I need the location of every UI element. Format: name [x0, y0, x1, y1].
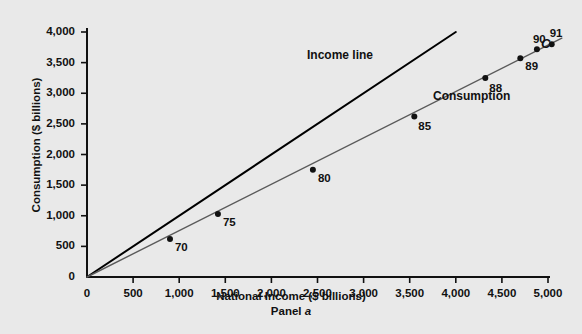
y-tick-label: 1,500: [23, 178, 75, 190]
consumption-curve-c-label: C: [541, 36, 550, 51]
y-tick-label: 1,000: [23, 209, 75, 221]
y-tick-label: 3,500: [23, 56, 75, 68]
y-tick-label: 4,000: [23, 25, 75, 37]
consumption-line-annotation: Consumption: [433, 89, 510, 103]
y-tick-label: 3,000: [23, 86, 75, 98]
data-point-marker: [310, 167, 316, 173]
data-point-label: 75: [223, 216, 236, 228]
data-point-marker: [411, 114, 417, 120]
data-point-label: 85: [418, 120, 431, 132]
chart-plot-area: [0, 0, 582, 334]
y-tick-label: 500: [23, 239, 75, 251]
series-line-income-line: [87, 32, 456, 277]
data-point-marker: [534, 46, 540, 52]
data-point-marker: [517, 55, 523, 61]
y-origin-label: 0: [23, 270, 75, 282]
data-point-label: 80: [318, 172, 331, 184]
panel-label-letter: a: [305, 305, 311, 317]
series-line-consumption: [87, 38, 562, 277]
consumption-income-chart: Consumption ($ billions) National Income…: [0, 0, 582, 334]
data-point-label: 70: [175, 241, 188, 253]
panel-label: Panel a: [0, 305, 582, 317]
y-tick-label: 2,000: [23, 148, 75, 160]
x-tick-label: 5,000: [518, 287, 578, 299]
panel-label-prefix: Panel: [271, 305, 305, 317]
data-point-marker: [215, 211, 221, 217]
income-line-annotation: Income line: [307, 48, 373, 62]
data-point-marker: [167, 236, 173, 242]
chart-series-lines: [87, 32, 562, 277]
data-point-marker: [482, 75, 488, 81]
y-tick-label: 2,500: [23, 117, 75, 129]
data-point-label: 91: [550, 27, 563, 39]
data-point-label: 89: [525, 60, 538, 72]
